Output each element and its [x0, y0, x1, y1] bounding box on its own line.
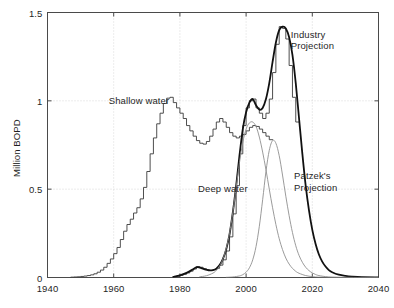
annotation-patzeks-projection: Patzek'sProjection — [294, 170, 337, 193]
x-tick-label-1: 1960 — [103, 283, 125, 294]
axis-ticks — [48, 13, 379, 278]
y-tick-label-0: 0 — [37, 272, 42, 283]
axes-frame — [48, 13, 379, 278]
y-axis-label: Million BOPD — [11, 119, 22, 177]
annotation-industry-projection: IndustryProjection — [291, 29, 334, 52]
annotation-patzek-line1: Patzek's — [294, 170, 330, 181]
annotation-industry-line2: Projection — [291, 40, 334, 51]
x-tick-label-3: 2000 — [235, 283, 257, 294]
annotation-industry-line1: Industry — [291, 29, 326, 40]
y-tick-label-1: 0.5 — [29, 184, 43, 195]
x-tick-label-0: 1940 — [37, 283, 59, 294]
annotation-deep-water: Deep water — [198, 183, 248, 195]
x-tick-label-2: 1980 — [169, 283, 191, 294]
data-series — [71, 27, 379, 278]
y-tick-label-2: 1 — [37, 95, 42, 106]
x-tick-label-5: 2040 — [368, 283, 390, 294]
annotation-patzek-line2: Projection — [294, 182, 337, 193]
figure-container: Million BOPD 0 0.5 1 1.5 1940 1960 1980 … — [0, 0, 394, 308]
y-tick-label-3: 1.5 — [29, 7, 43, 18]
annotation-shallow-water: Shallow water — [109, 95, 169, 107]
grid-lines — [48, 13, 379, 278]
chart-canvas — [0, 0, 394, 308]
x-tick-label-4: 2020 — [302, 283, 324, 294]
